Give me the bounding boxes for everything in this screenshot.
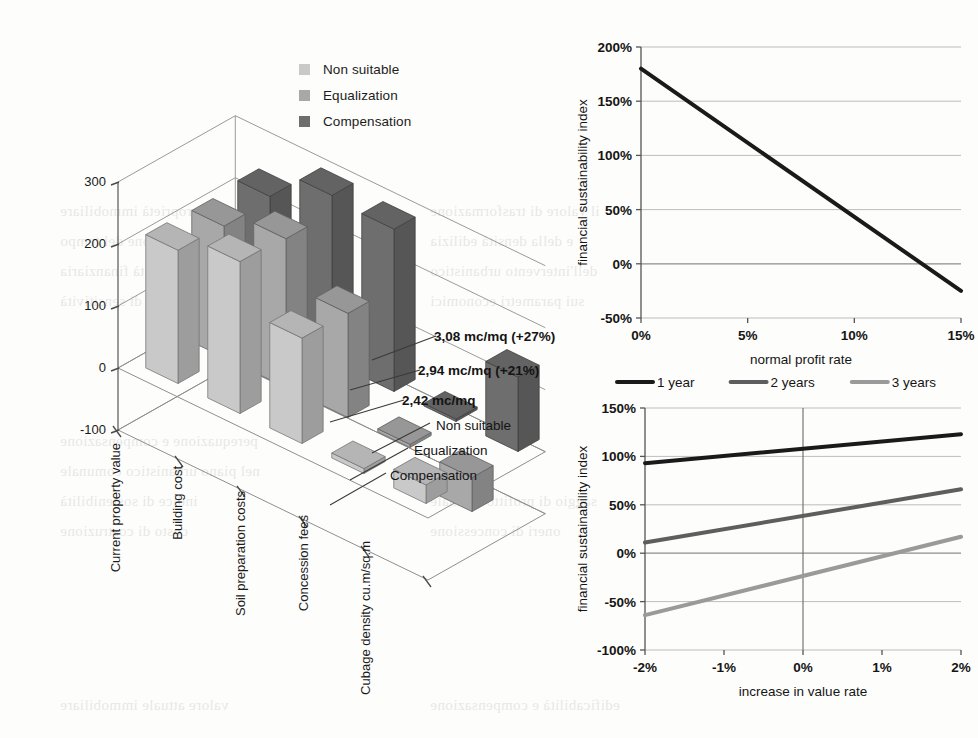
x-tick-label: 0% (793, 660, 813, 675)
x-axis-title: normal profit rate (750, 352, 852, 367)
y-axis-title: financial sustainability index (575, 445, 590, 612)
x-tick-label: 0% (631, 328, 651, 343)
three-d-bar-chart: Non suitable Equalization Compensation 3… (0, 18, 600, 728)
y-tick-label: 150% (601, 401, 636, 416)
legend-swatch-non-suitable (299, 64, 310, 75)
legend-label-non-suitable: Non suitable (323, 62, 399, 77)
y-tick-label: -50% (600, 311, 632, 326)
annotation-cubage-2-42: 2,42 mc/mq (402, 393, 476, 408)
x-tick-label: -2% (633, 660, 657, 675)
bar-y-tick-minus-100: -100 (80, 422, 106, 437)
bar-y-tick-200: 200 (84, 236, 106, 251)
bar-category-label-2: Soil preparation costs (233, 491, 248, 616)
legend-item-equalization: Equalization (299, 82, 411, 108)
bar-category-label-0: Current property value (108, 443, 123, 572)
depth-label-equalization: Equalization (414, 443, 488, 458)
y-tick-label: 200% (597, 40, 632, 55)
y-tick-label: 150% (597, 94, 632, 109)
bar-y-tick-100: 100 (84, 298, 106, 313)
x-tick-label: 5% (738, 328, 758, 343)
y-tick-label: -50% (604, 595, 636, 610)
y-tick-label: 0% (616, 546, 636, 561)
legend-swatch-equalization (299, 90, 310, 101)
y-axis-title: financial sustainability index (575, 99, 590, 266)
legend-label-1-year: 1 year (657, 375, 695, 390)
line-chart-bottom-canvas: -100%-50%0%50%100%150%-2%-1%0%1%2%increa… (575, 372, 975, 702)
y-tick-label: -100% (597, 643, 636, 658)
annotation-cubage-3-08: 3,08 mc/mq (+27%) (434, 329, 555, 344)
depth-label-non-suitable: Non suitable (436, 418, 511, 433)
line-chart-increase-in-value-rate: -100%-50%0%50%100%150%-2%-1%0%1%2%increa… (575, 372, 975, 702)
legend-item-compensation: Compensation (299, 108, 411, 134)
legend-label-compensation: Compensation (323, 114, 411, 129)
y-tick-label: 50% (605, 203, 632, 218)
legend-swatch-compensation (299, 116, 310, 127)
line-chart-normal-profit-rate: -50%0%50%100%150%200%0%5%10%15%normal pr… (575, 25, 975, 370)
legend-item-non-suitable: Non suitable (299, 56, 411, 82)
y-tick-label: 100% (601, 449, 636, 464)
bar-chart-legend: Non suitable Equalization Compensation (299, 56, 411, 134)
bar-category-label-4: Cubage density cu.m/sq.m (358, 541, 373, 695)
x-tick-label: 1% (872, 660, 892, 675)
x-tick-label: 15% (947, 328, 974, 343)
y-tick-label: 100% (597, 148, 632, 163)
series-line-sustainability (641, 69, 961, 291)
bar-y-tick-300: 300 (84, 174, 106, 189)
y-tick-label: 50% (609, 498, 636, 513)
y-tick-label: 0% (612, 257, 632, 272)
bar-y-tick-0: 0 (99, 360, 106, 375)
x-tick-label: 10% (841, 328, 868, 343)
legend-label-2-years: 2 years (771, 375, 816, 390)
x-axis-title: increase in value rate (739, 684, 867, 699)
x-tick-label: -1% (712, 660, 736, 675)
annotation-cubage-2-94: 2,94 mc/mq (+21%) (418, 363, 539, 378)
legend-label-equalization: Equalization (323, 88, 398, 103)
legend-label-3-years: 3 years (892, 375, 937, 390)
bar-category-label-3: Concession fees (296, 515, 311, 611)
bar-category-label-1: Building cost (170, 466, 185, 540)
x-tick-label: 2% (951, 660, 971, 675)
line-chart-top-canvas: -50%0%50%100%150%200%0%5%10%15%normal pr… (575, 25, 975, 370)
depth-label-compensation: Compensation (390, 468, 477, 483)
